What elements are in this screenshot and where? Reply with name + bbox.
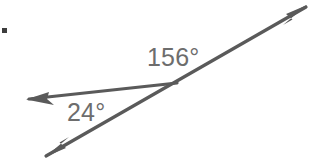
left-ray-line <box>29 83 177 99</box>
arrowhead-upper-right-icon <box>283 5 307 25</box>
ray-group <box>26 5 307 157</box>
angle-diagram: 156° 24° <box>0 0 327 160</box>
angle-label-24: 24° <box>67 100 105 125</box>
angle-label-156: 156° <box>147 45 200 70</box>
ray-lower-left-to-upper-right <box>45 5 307 157</box>
arrowhead-left-icon <box>26 92 54 105</box>
geometry-figure <box>0 0 327 160</box>
